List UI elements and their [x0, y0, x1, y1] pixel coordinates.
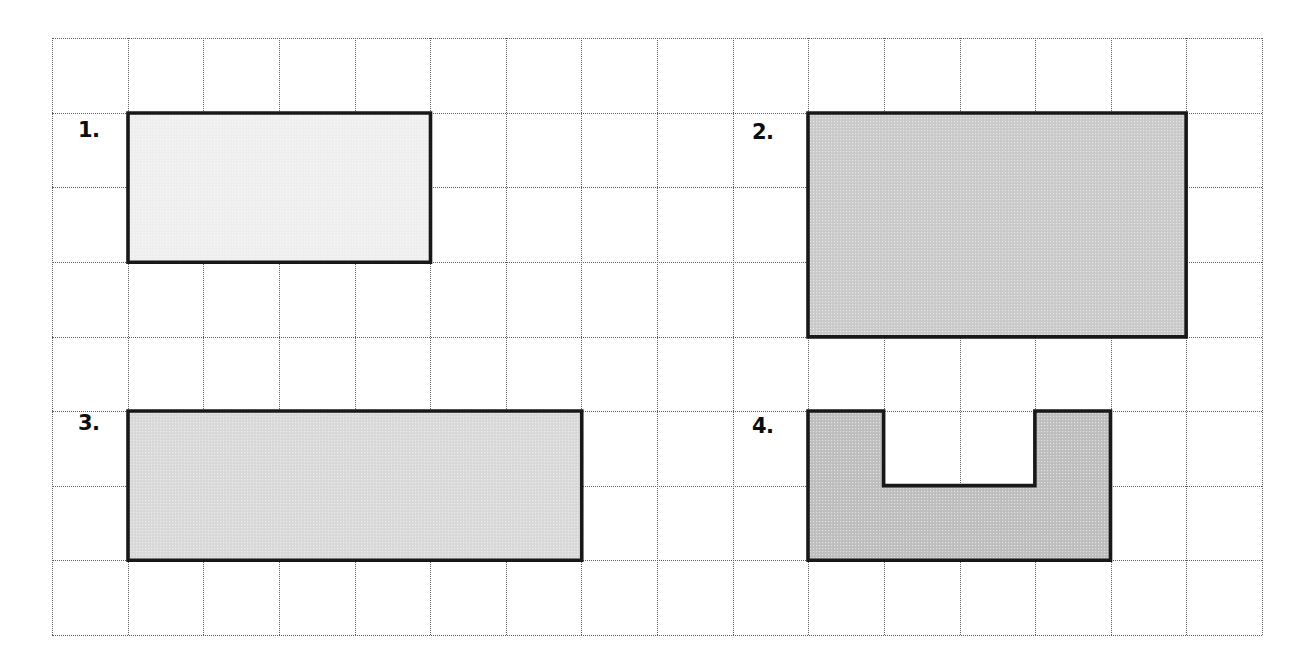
shape-3-outline: [128, 411, 582, 560]
shape-3: [124, 407, 586, 564]
grid-line-horizontal: [52, 38, 1262, 39]
shape-1-number-label: 1.: [78, 120, 100, 141]
shape-4-outline: [808, 411, 1111, 560]
shape-2: [804, 109, 1190, 341]
shape-2-outline: [808, 113, 1186, 337]
shape-4-number-label: 4.: [752, 416, 774, 437]
shape-4: [804, 407, 1115, 564]
grid-line-horizontal: [52, 635, 1262, 636]
shape-3-number-label: 3.: [78, 413, 100, 434]
worksheet-canvas: 1.2.3.4.: [0, 0, 1304, 670]
shape-1-outline: [128, 113, 431, 262]
grid-line-vertical: [52, 38, 53, 635]
shape-2-number-label: 2.: [752, 122, 774, 143]
shape-1: [124, 109, 435, 266]
grid-line-vertical: [657, 38, 658, 635]
grid-line-vertical: [733, 38, 734, 635]
grid-line-vertical: [1262, 38, 1263, 635]
